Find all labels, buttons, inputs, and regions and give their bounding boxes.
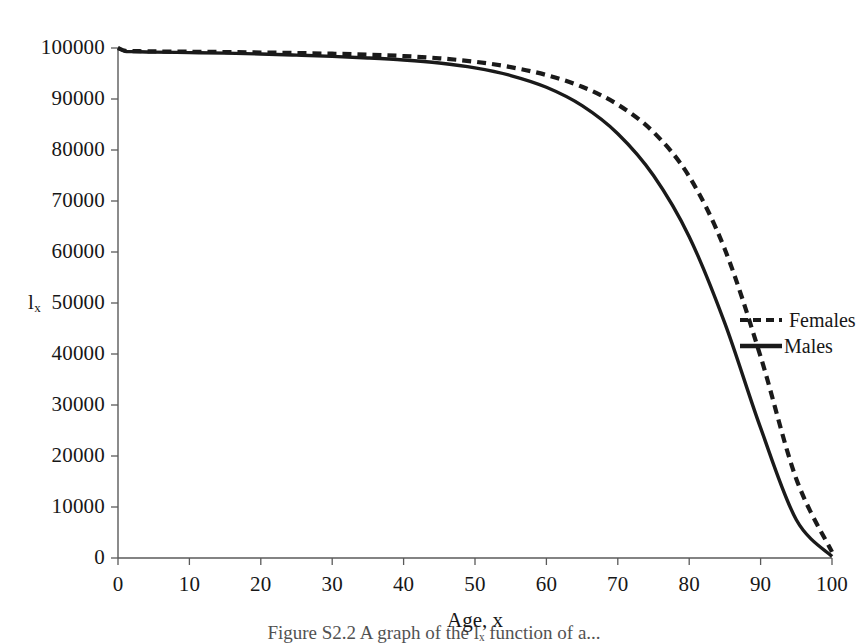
y-axis-title: lx — [28, 292, 40, 315]
x-axis-tick-label: 100 — [792, 574, 868, 595]
legend-item-males: Males — [739, 333, 868, 359]
x-axis-tick-label: 10 — [149, 574, 229, 595]
x-axis-tick-label: 0 — [78, 574, 158, 595]
y-axis-title-base: l — [28, 290, 34, 314]
y-axis-tick-label: 20000 — [52, 445, 106, 466]
x-axis-tick-label: 50 — [435, 574, 515, 595]
y-axis-tick-label: 0 — [94, 547, 105, 568]
y-axis-tick-label: 60000 — [52, 241, 106, 262]
chart-plot-area: 0100002000030000400005000060000700008000… — [0, 0, 868, 643]
x-axis-tick-label: 40 — [364, 574, 444, 595]
x-axis-tick-label: 20 — [221, 574, 301, 595]
legend-label-females: Females — [789, 310, 856, 330]
series-line-females — [118, 48, 832, 552]
solid-line-icon — [739, 339, 783, 353]
y-axis-tick-label: 10000 — [52, 496, 106, 517]
chart-series-group — [118, 48, 832, 556]
x-axis-tick-label: 60 — [506, 574, 586, 595]
y-axis-tick-label: 40000 — [52, 343, 106, 364]
figure-caption: Figure S2.2 A graph of the lₓ function o… — [0, 622, 868, 643]
dashed-line-icon — [739, 313, 783, 327]
chart-svg — [0, 0, 868, 643]
chart-legend: Females Males — [739, 307, 868, 359]
y-axis-title-subscript: x — [34, 300, 41, 315]
y-axis-tick-label: 80000 — [52, 139, 106, 160]
y-axis-tick-label: 50000 — [52, 292, 106, 313]
figure-container: 0100002000030000400005000060000700008000… — [0, 0, 868, 643]
x-axis-tick-label: 90 — [721, 574, 801, 595]
y-axis-ticks — [111, 48, 118, 558]
y-axis-tick-label: 100000 — [41, 37, 105, 58]
y-axis-tick-label: 70000 — [52, 190, 106, 211]
y-axis-tick-label: 90000 — [52, 88, 106, 109]
x-axis-tick-label: 80 — [649, 574, 729, 595]
series-line-males — [118, 48, 832, 556]
x-axis-tick-label: 30 — [292, 574, 372, 595]
x-axis-tick-label: 70 — [578, 574, 658, 595]
y-axis-tick-label: 30000 — [52, 394, 106, 415]
legend-label-males: Males — [784, 336, 833, 356]
legend-item-females: Females — [739, 307, 868, 333]
x-axis-ticks — [118, 558, 832, 565]
